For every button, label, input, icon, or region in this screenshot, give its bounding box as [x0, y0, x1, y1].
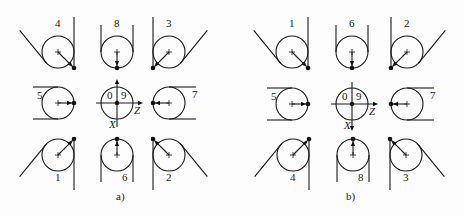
tool-tip-dot [351, 137, 356, 142]
axis-label-x: X [108, 118, 117, 130]
position-4: 4 [20, 17, 77, 70]
position-label: 2 [404, 17, 410, 29]
position-8: 8 [101, 17, 133, 70]
position-label: 5 [271, 90, 277, 102]
position-6: 6 [336, 17, 368, 70]
label-nine: 9 [121, 89, 127, 101]
position-6: 6 [101, 137, 133, 183]
panel-b: 1625748309ZXb) [254, 17, 446, 203]
position-label: 8 [114, 17, 120, 29]
tool-tip-dot [72, 66, 77, 71]
position-3: 3 [151, 17, 208, 70]
position-5: 5 [33, 87, 76, 119]
position-label: 5 [37, 89, 43, 101]
position-5: 5 [267, 88, 310, 120]
position-label: 3 [166, 17, 172, 29]
position-3: 3 [388, 137, 445, 190]
origin-circle-b: 09ZX [331, 82, 378, 131]
label-zero: 0 [342, 90, 348, 102]
position-label: 4 [55, 17, 61, 29]
label-zero: 0 [107, 89, 113, 101]
position-8: 8 [337, 137, 369, 183]
position-label: 6 [349, 17, 355, 29]
tool-position-diagram: 4835716209ZXa)1625748309ZXb) [0, 0, 464, 215]
position-label: 2 [166, 171, 172, 183]
position-label: 4 [290, 171, 296, 183]
tool-tip-dot [389, 102, 394, 107]
label-nine: 9 [356, 90, 362, 102]
tool-tip-dot [72, 101, 77, 106]
position-2: 2 [389, 17, 446, 70]
position-label: 8 [358, 171, 364, 183]
tool-tip-dot [306, 102, 311, 107]
origin-circle-a: 09ZX [96, 79, 143, 130]
position-label: 1 [289, 17, 295, 29]
axis-label-z: Z [134, 104, 141, 116]
panel-caption: b) [346, 190, 356, 203]
position-label: 7 [192, 88, 198, 100]
position-2: 2 [151, 137, 208, 190]
tool-tip-dot [389, 66, 394, 71]
tool-tip-dot [115, 137, 120, 142]
tool-tip-dot [307, 137, 312, 142]
panel-a: 4835716209ZXa) [20, 17, 208, 203]
position-label: 7 [430, 89, 436, 101]
axis-label-z: Z [369, 105, 376, 117]
tool-tip-dot [350, 66, 355, 71]
tool-tip-dot [388, 137, 393, 142]
tool-tip-dot [72, 137, 77, 142]
position-7: 7 [389, 88, 436, 120]
position-1: 1 [20, 137, 77, 190]
tool-tip-dot [151, 66, 156, 71]
position-1: 1 [254, 17, 311, 70]
diagram-canvas: 4835716209ZXa)1625748309ZXb) [0, 0, 464, 215]
position-label: 1 [55, 171, 61, 183]
position-label: 3 [403, 171, 409, 183]
tool-tip-dot [115, 66, 120, 71]
position-7: 7 [151, 87, 198, 119]
position-label: 6 [122, 171, 128, 183]
tool-tip-dot [151, 101, 156, 106]
panel-caption: a) [116, 190, 125, 203]
axis-label-x: X [343, 119, 352, 131]
position-4: 4 [255, 137, 312, 190]
tool-tip-dot [306, 66, 311, 71]
tool-tip-dot [151, 137, 156, 142]
